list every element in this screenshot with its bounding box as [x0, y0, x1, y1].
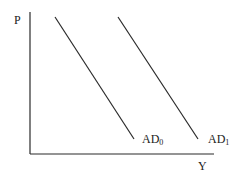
ad0-curve — [55, 17, 134, 139]
ad-diagram — [0, 0, 238, 176]
ad0-label: AD0 — [142, 133, 163, 149]
ad0-subscript: 0 — [159, 138, 163, 147]
ad1-name: AD — [208, 132, 225, 146]
ad0-name: AD — [142, 132, 159, 146]
ad1-label: AD1 — [208, 133, 229, 149]
y-axis-label: P — [14, 14, 21, 26]
ad1-curve — [118, 17, 198, 139]
x-axis-label: Y — [198, 160, 207, 172]
ad1-subscript: 1 — [225, 138, 229, 147]
